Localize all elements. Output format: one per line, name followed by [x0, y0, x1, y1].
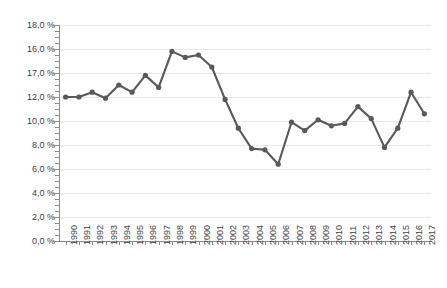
data-point-marker — [422, 111, 427, 116]
data-point-marker — [143, 73, 148, 78]
data-point-marker — [369, 116, 374, 121]
data-point-marker — [302, 128, 307, 133]
line-chart: 18,0 %16,0 %17,0 %12,0 %10,0 %8,0 %6,0 %… — [0, 0, 447, 288]
data-point-marker — [63, 94, 68, 99]
data-point-marker — [355, 104, 360, 109]
data-point-marker — [249, 146, 254, 151]
data-point-marker — [276, 162, 281, 167]
data-point-marker — [289, 120, 294, 125]
data-point-marker — [103, 96, 108, 101]
data-series-layer — [0, 0, 447, 288]
data-point-marker — [90, 90, 95, 95]
data-point-marker — [169, 49, 174, 54]
data-point-marker — [222, 97, 227, 102]
data-point-marker — [382, 145, 387, 150]
data-point-marker — [342, 121, 347, 126]
data-point-marker — [395, 126, 400, 131]
data-point-marker — [156, 85, 161, 90]
data-point-marker — [315, 117, 320, 122]
data-point-marker — [262, 147, 267, 152]
data-point-marker — [116, 82, 121, 87]
data-point-marker — [183, 55, 188, 60]
data-point-marker — [329, 123, 334, 128]
data-point-marker — [209, 64, 214, 69]
data-point-marker — [236, 126, 241, 131]
data-point-marker — [408, 90, 413, 95]
data-point-marker — [76, 94, 81, 99]
series-line — [66, 51, 425, 164]
data-point-marker — [196, 52, 201, 57]
data-point-marker — [129, 90, 134, 95]
